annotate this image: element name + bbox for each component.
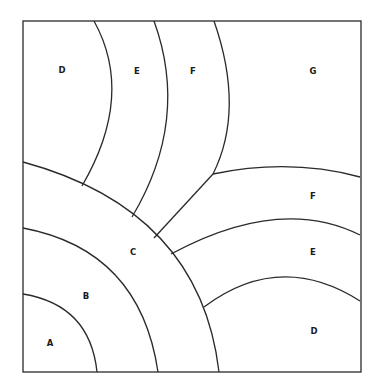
zone-label-A: A [47,338,54,348]
zone-label-E-top: E [134,66,140,76]
arc-F-G-right [213,167,360,177]
zone-label-D-top: D [58,65,65,75]
curve-F-G-top [213,21,229,174]
zone-labels: ABCDEFGFED [47,65,318,348]
arc-E-F-right [171,219,360,254]
arc-B-C [23,228,158,372]
zone-label-G: G [310,66,317,76]
curve-E-F-top [132,21,168,217]
zone-label-F-right: F [310,191,316,201]
zone-diagram: ABCDEFGFED [0,0,378,387]
line-F-G-diagonal [154,174,213,238]
curve-D-E-top [82,21,112,186]
zone-label-D-right: D [310,326,317,336]
arc-A-B [23,294,97,372]
zone-label-F-top: F [190,66,196,76]
zone-label-E-right: E [310,247,316,257]
arc-D-E-right [204,277,360,307]
zone-label-B: B [83,291,89,301]
zone-label-C: C [130,247,136,257]
